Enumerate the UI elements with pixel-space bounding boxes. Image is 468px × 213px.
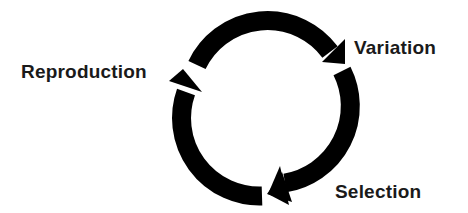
label-selection: Selection <box>335 181 421 203</box>
cycle-diagram: Variation Selection Reproduction <box>0 0 468 213</box>
arrow-reproduction-to-variation <box>197 21 345 65</box>
arrow-selection-to-reproduction <box>169 69 262 196</box>
label-reproduction: Reproduction <box>21 61 147 83</box>
label-variation: Variation <box>354 37 436 59</box>
